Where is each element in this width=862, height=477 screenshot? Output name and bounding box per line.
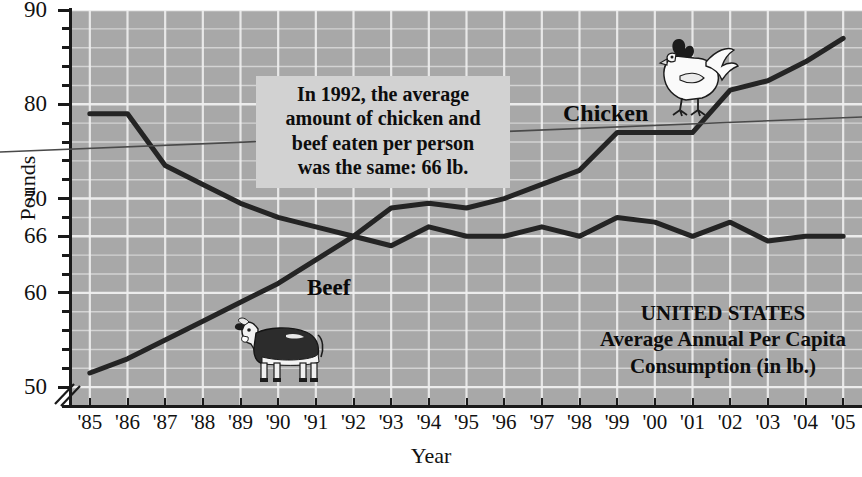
x-tick xyxy=(164,398,166,407)
x-tick xyxy=(353,398,355,407)
y-tick xyxy=(62,254,71,257)
x-tick xyxy=(767,398,769,407)
y-tick xyxy=(58,235,71,238)
x-tick xyxy=(616,398,618,407)
x-tick xyxy=(842,398,844,407)
x-tick xyxy=(240,398,242,407)
y-tick xyxy=(62,84,71,87)
series-label-beef: Beef xyxy=(307,275,350,301)
x-tick xyxy=(277,398,279,407)
y-tick xyxy=(62,329,71,332)
caption-line-2: Average Annual Per Capita xyxy=(598,326,848,352)
y-tick-label: 60 xyxy=(0,281,47,304)
y-tick xyxy=(62,65,71,68)
x-tick xyxy=(805,398,807,407)
annotation-callout: In 1992, the average amount of chicken a… xyxy=(256,76,510,188)
y-axis-title: Pounds xyxy=(15,138,41,238)
y-tick xyxy=(62,348,71,351)
x-tick xyxy=(466,398,468,407)
y-tick xyxy=(58,103,71,106)
x-tick xyxy=(654,398,656,407)
y-tick xyxy=(62,273,71,276)
chart-figure: 506066708090 '85'86'87'88'89'90'91'92'93… xyxy=(0,0,862,477)
x-axis-title: Year xyxy=(0,443,862,469)
caption-line-3: Consumption (in lb.) xyxy=(598,353,848,379)
y-tick xyxy=(62,122,71,125)
x-tick xyxy=(541,398,543,407)
cow-illustration xyxy=(228,305,338,383)
chicken-illustration xyxy=(646,32,744,120)
y-tick xyxy=(58,197,71,200)
x-tick xyxy=(692,398,694,407)
x-tick xyxy=(390,398,392,407)
axis-break-icon xyxy=(52,378,82,408)
chart-caption: UNITED STATES Average Annual Per Capita … xyxy=(598,300,848,379)
y-tick-label: 80 xyxy=(0,92,47,115)
x-tick xyxy=(202,398,204,407)
y-tick xyxy=(62,46,71,49)
x-tick xyxy=(729,398,731,407)
x-tick xyxy=(503,398,505,407)
callout-line-4: was the same: 66 lb. xyxy=(260,155,506,179)
x-tick xyxy=(89,398,91,407)
caption-line-1: UNITED STATES xyxy=(598,300,848,326)
x-tick-label: '05 xyxy=(819,412,862,433)
y-tick xyxy=(62,367,71,370)
y-tick xyxy=(62,310,71,313)
y-tick xyxy=(58,9,71,12)
x-tick xyxy=(428,398,430,407)
x-tick xyxy=(579,398,581,407)
y-tick xyxy=(62,141,71,144)
callout-line-3: beef eaten per person xyxy=(260,131,506,155)
y-tick-label: 90 xyxy=(0,0,47,21)
series-label-chicken: Chicken xyxy=(563,100,648,127)
x-tick xyxy=(315,398,317,407)
x-tick xyxy=(127,398,129,407)
y-tick xyxy=(62,159,71,162)
y-tick-label: 50 xyxy=(0,375,47,398)
y-tick xyxy=(62,27,71,30)
callout-line-2: amount of chicken and xyxy=(260,106,506,130)
y-tick xyxy=(58,291,71,294)
y-tick xyxy=(62,178,71,181)
callout-line-1: In 1992, the average xyxy=(260,82,506,106)
y-tick xyxy=(62,216,71,219)
